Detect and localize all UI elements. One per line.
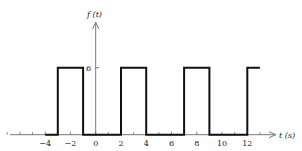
axes: [10, 22, 276, 138]
x-tick-label: 4: [144, 139, 149, 148]
x-tick-label: 0: [93, 139, 98, 148]
x-axis-label: t (s): [279, 131, 295, 140]
x-tick-label: 2: [118, 139, 123, 148]
x-tick-label: −4: [39, 139, 51, 148]
y-tick-label: 6: [86, 64, 91, 73]
y-axis-label: f (t): [86, 10, 102, 19]
x-tick-label: 10: [217, 139, 227, 148]
signal-line: [45, 68, 260, 135]
pulse-train-chart: −4−2024681012 6 f (t) t (s): [0, 0, 302, 151]
x-tick-label: 12: [242, 139, 252, 148]
x-tick-label: 8: [194, 139, 199, 148]
x-tick-label: 6: [169, 139, 174, 148]
x-tick-label: −2: [65, 139, 77, 148]
